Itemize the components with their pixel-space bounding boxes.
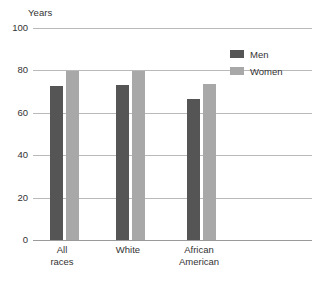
bar-women-african-american <box>203 84 216 240</box>
bar-men-african-american <box>187 99 200 240</box>
gridline-0 <box>33 240 312 241</box>
legend-label-men: Men <box>250 49 268 60</box>
legend-swatch-women <box>230 67 244 75</box>
bar-chart: Years 020406080100 AllracesWhiteAfricanA… <box>0 0 321 281</box>
bar-women-all-races <box>66 71 79 240</box>
legend: MenWomen <box>230 47 283 81</box>
bar-men-white <box>116 85 129 240</box>
legend-swatch-men <box>230 50 244 58</box>
legend-item-women[interactable]: Women <box>230 64 283 78</box>
y-axis-unit-label: Years <box>28 7 52 18</box>
y-tick-label-40: 40 <box>0 150 28 160</box>
legend-item-men[interactable]: Men <box>230 47 283 61</box>
y-tick-label-80: 80 <box>0 65 28 75</box>
y-tick-label-20: 20 <box>0 193 28 203</box>
x-label-african-american: AfricanAmerican <box>154 244 244 267</box>
y-tick-label-100: 100 <box>0 23 28 33</box>
bar-men-all-races <box>50 86 63 240</box>
legend-label-women: Women <box>250 66 283 77</box>
y-tick-label-60: 60 <box>0 108 28 118</box>
gridline-100 <box>33 28 312 29</box>
bar-women-white <box>132 71 145 240</box>
